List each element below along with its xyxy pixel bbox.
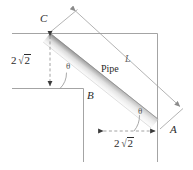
figure-canvas: C B A θ θ Pipe L 2√2 2√2 — [0, 0, 193, 170]
horizontal-dim-radical: √2 — [120, 137, 135, 149]
horizontal-dim-radicand: 2 — [127, 137, 135, 149]
angle-label-at-b: θ — [66, 62, 70, 71]
vertical-dimension-label: 2√2 — [11, 54, 31, 66]
wall-lines — [12, 34, 158, 163]
length-label: L — [125, 54, 131, 64]
radical-sign: √ — [18, 55, 23, 66]
radical-sign: √ — [121, 138, 126, 149]
angle-arc-at-b — [60, 73, 67, 89]
vertical-dim-radical: √2 — [17, 54, 32, 66]
pipe-label: Pipe — [101, 64, 119, 74]
point-label-a: A — [170, 124, 177, 135]
point-label-b: B — [87, 90, 94, 101]
point-label-c: C — [40, 13, 47, 24]
vertical-dim-radicand: 2 — [24, 54, 32, 66]
angle-label-at-a: θ — [138, 107, 142, 116]
length-extension-top — [51, 10, 78, 32]
horizontal-dimension-label: 2√2 — [114, 137, 134, 149]
geometry-drawing — [0, 0, 193, 170]
